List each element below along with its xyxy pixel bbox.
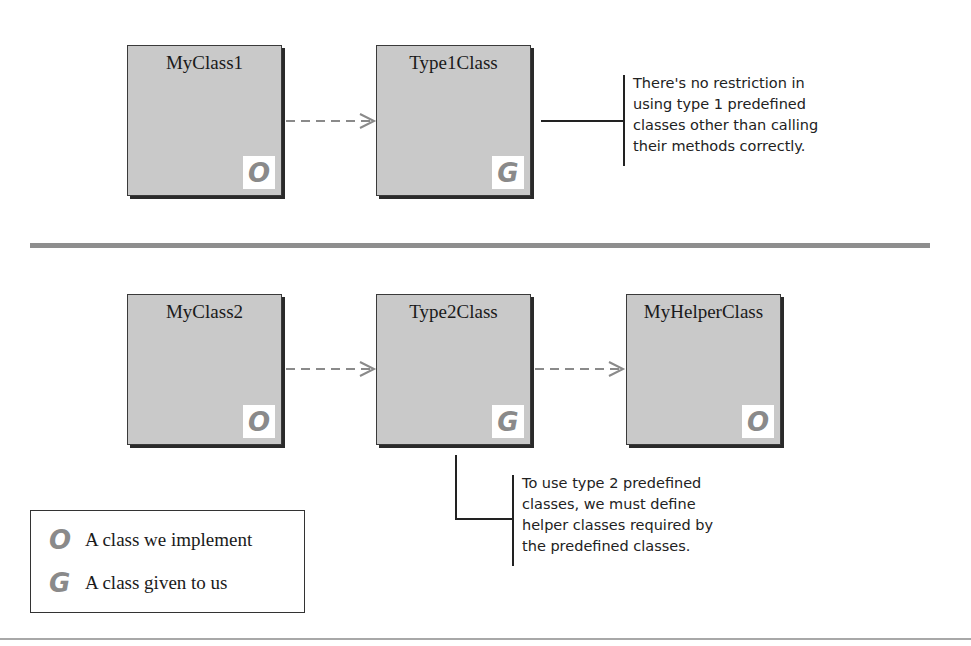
class-name: Type1Class <box>377 52 530 74</box>
legend-label: A class given to us <box>85 572 228 594</box>
class-box-myclass2: MyClass2 O <box>127 294 282 445</box>
dashed-arrow-icon <box>533 360 628 380</box>
class-box-myclass1: MyClass1 O <box>127 45 282 196</box>
class-name: Type2Class <box>377 301 530 323</box>
implemented-badge-icon: O <box>243 156 275 189</box>
dashed-arrow-icon <box>284 112 379 132</box>
class-name: MyClass2 <box>128 301 281 323</box>
legend-label: A class we implement <box>85 529 252 551</box>
bottom-rule <box>0 638 971 640</box>
legend-item-given: G A class given to us <box>49 568 228 598</box>
legend-item-implemented: O A class we implement <box>49 525 252 555</box>
note-bracket <box>512 475 514 566</box>
given-glyph-icon: G <box>49 568 79 598</box>
class-box-myhelperclass: MyHelperClass O <box>626 294 781 445</box>
class-box-type2class: Type2Class G <box>376 294 531 445</box>
note-bracket <box>623 75 625 166</box>
dashed-arrow-icon <box>284 360 379 380</box>
given-badge-icon: G <box>492 405 524 438</box>
note-connector <box>541 120 624 122</box>
legend: O A class we implement G A class given t… <box>30 510 305 613</box>
section-separator <box>30 243 930 248</box>
implemented-glyph-icon: O <box>49 525 79 555</box>
class-name: MyClass1 <box>128 52 281 74</box>
note-connector-vertical <box>455 455 457 520</box>
type1-note: There's no restriction in using type 1 p… <box>633 73 818 157</box>
note-connector-horizontal <box>455 518 513 520</box>
implemented-badge-icon: O <box>742 405 774 438</box>
given-badge-icon: G <box>492 156 524 189</box>
type2-note: To use type 2 predefined classes, we mus… <box>522 473 713 557</box>
class-name: MyHelperClass <box>627 301 780 323</box>
class-box-type1class: Type1Class G <box>376 45 531 196</box>
implemented-badge-icon: O <box>243 405 275 438</box>
